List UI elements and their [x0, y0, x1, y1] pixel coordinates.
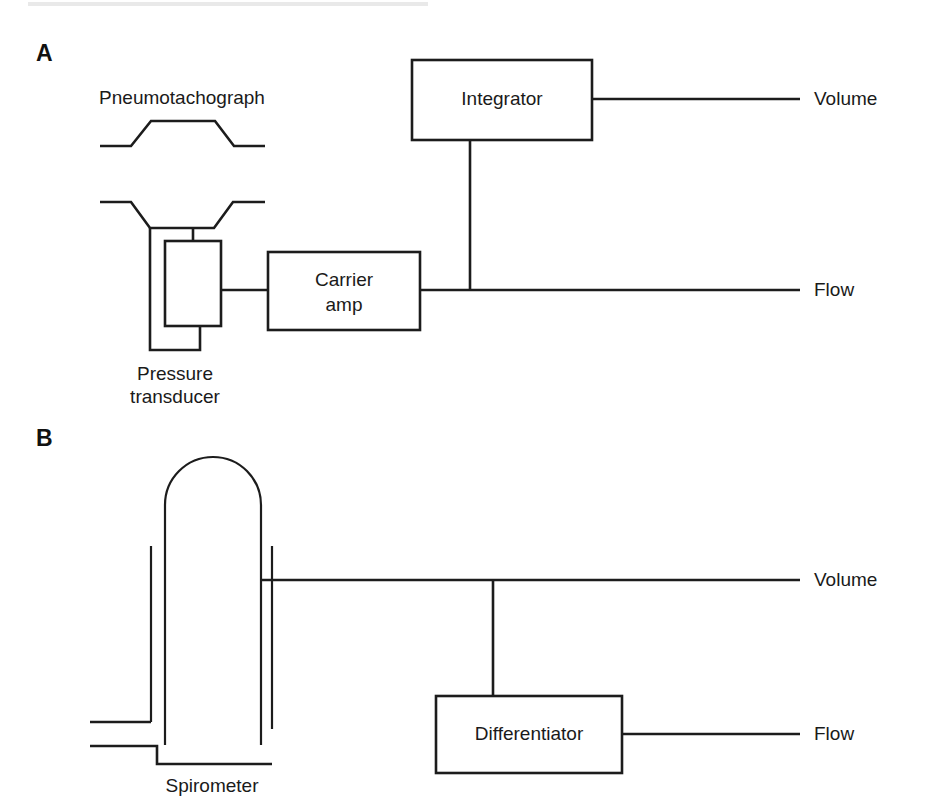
figure-root: A B Pneumotachograph Pressure transducer…	[0, 0, 930, 810]
spirometer-label: Spirometer	[166, 775, 259, 797]
carrier-amp-label-line1: Carrier	[315, 269, 373, 292]
differentiator-label: Differentiator	[475, 723, 583, 746]
spirometer-base-and-tubes	[90, 722, 272, 764]
carrier-amp-label-line2: amp	[326, 294, 363, 317]
pneumotachograph-label: Pneumotachograph	[99, 87, 265, 109]
pressure-transducer-label-line1: Pressure	[137, 363, 213, 385]
output-label-volume-b: Volume	[814, 569, 877, 591]
output-label-flow-b: Flow	[814, 723, 854, 745]
panel-letter-b: B	[36, 425, 53, 452]
pressure-transducer-label-line2: transducer	[130, 386, 220, 408]
integrator-label: Integrator	[461, 88, 542, 111]
pressure-transducer-body	[165, 241, 221, 326]
output-label-flow-a: Flow	[814, 279, 854, 301]
panel-letter-a: A	[36, 40, 53, 67]
spirometer-bell	[165, 457, 261, 745]
output-label-volume-a: Volume	[814, 88, 877, 110]
pneumotachograph-upper-tube	[100, 121, 265, 146]
pneumotachograph-lower-tube	[100, 202, 265, 228]
